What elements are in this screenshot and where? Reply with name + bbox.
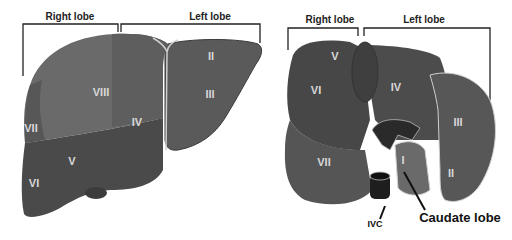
ivc-pointer <box>380 206 385 219</box>
posterior-left-lobe-label: Left lobe <box>403 14 445 25</box>
gallbladder-posterior <box>352 42 378 102</box>
anterior-right-lobe-label: Right lobe <box>46 11 95 22</box>
segment-ii-iii-posterior <box>430 73 495 201</box>
label-i-caudate: I <box>401 154 404 166</box>
segment-iv-upper <box>112 34 168 127</box>
label-v: V <box>68 155 76 167</box>
posterior-view: Right lobe Left lobe V VI IV VII I III I… <box>285 14 501 229</box>
gallbladder <box>85 187 107 199</box>
label-vi-posterior: VI <box>311 84 321 96</box>
label-ii-posterior: II <box>448 167 454 179</box>
ivc-label: IVC <box>367 219 383 229</box>
label-vii-posterior: VII <box>317 156 330 168</box>
label-iv-posterior: IV <box>391 81 402 93</box>
anterior-left-lobe-label: Left lobe <box>189 11 231 22</box>
caudate-lobe-label: Caudate lobe <box>419 210 501 225</box>
anterior-view: Right lobe Left lobe VIII II III IV VII … <box>22 11 262 217</box>
label-iv: IV <box>132 116 143 128</box>
label-ii: II <box>208 50 214 62</box>
liver-diagram: Right lobe Left lobe VIII II III IV VII … <box>0 0 512 240</box>
posterior-right-lobe-label: Right lobe <box>306 14 355 25</box>
label-v-posterior: V <box>331 50 339 62</box>
label-viii: VIII <box>93 86 110 98</box>
label-iii-posterior: III <box>453 116 462 128</box>
ivc-opening <box>370 172 390 180</box>
label-vii: VII <box>24 122 37 134</box>
label-vi: VI <box>29 177 39 189</box>
label-iii: III <box>205 88 214 100</box>
